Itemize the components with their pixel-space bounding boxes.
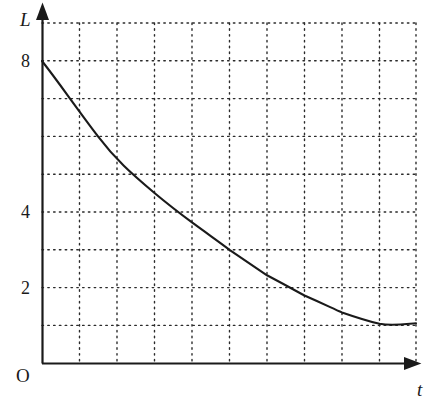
x-axis-label: t [417,380,422,399]
y-tick-label-4: 4 [8,203,30,221]
y-tick-label-8: 8 [8,52,30,70]
y-tick-label-2: 2 [8,279,30,297]
plot-canvas [0,0,441,409]
y-axis-label: L [20,10,31,29]
origin-label: O [16,366,30,385]
vertical-gridlines [80,23,417,363]
graph-figure: L t O 8 4 2 [0,0,441,409]
